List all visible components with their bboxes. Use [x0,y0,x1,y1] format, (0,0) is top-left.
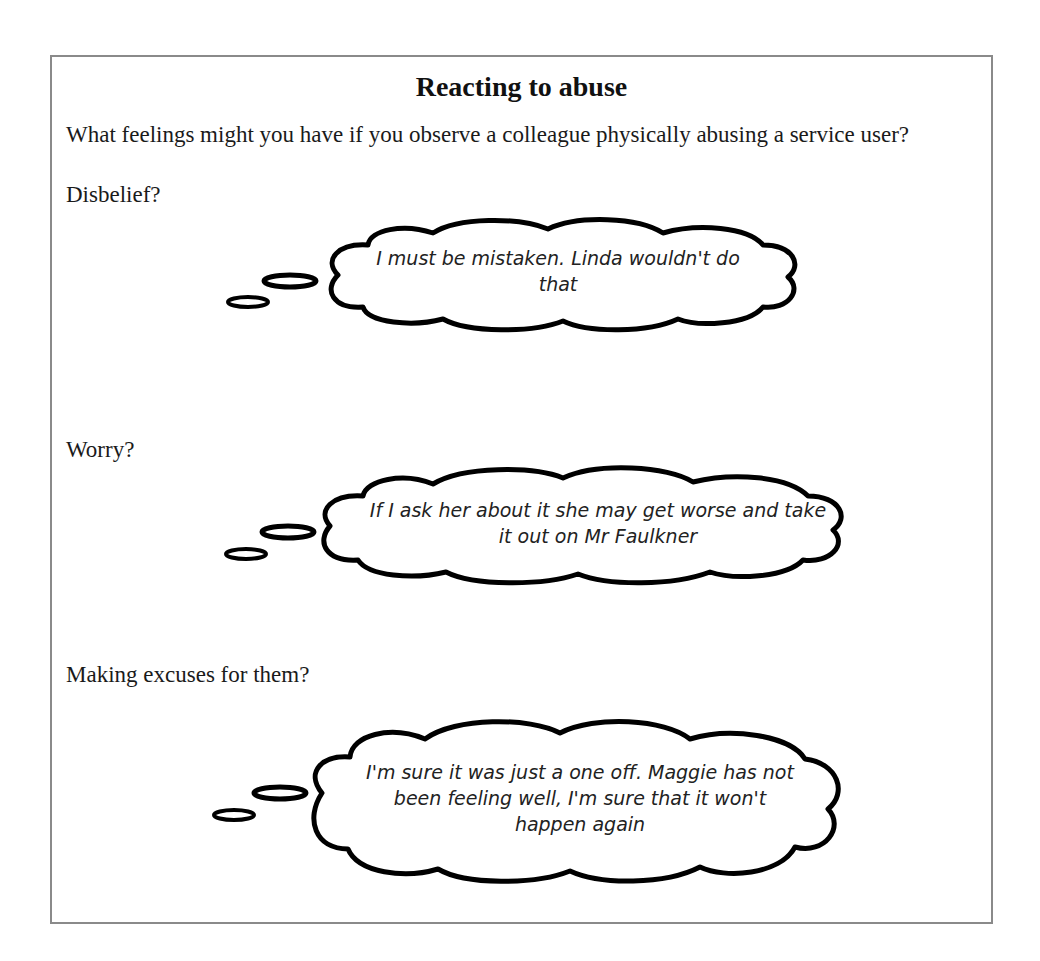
thought-bubble-excuses: I'm sure it was just a one off. Maggie h… [210,717,910,892]
page-title: Reacting to abuse [52,71,991,103]
thought-text-disbelief: I must be mistaken. Linda wouldn't do th… [368,245,748,297]
prompt-question: What feelings might you have if you obse… [66,117,966,153]
thought-bubble-disbelief: I must be mistaken. Linda wouldn't do th… [218,215,858,335]
label-making-excuses: Making excuses for them? [66,662,309,688]
thought-text-worry: If I ask her about it she may get worse … [363,497,833,549]
label-worry: Worry? [66,437,134,463]
label-disbelief: Disbelief? [66,182,161,208]
thought-bubble-worry: If I ask her about it she may get worse … [218,462,918,587]
document-frame: Reacting to abuse What feelings might yo… [50,55,993,924]
thought-text-excuses: I'm sure it was just a one off. Maggie h… [360,759,800,837]
